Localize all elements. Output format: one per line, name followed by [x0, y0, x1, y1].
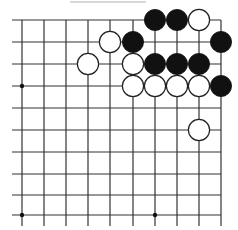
white-stone[interactable]	[188, 119, 209, 140]
white-stone[interactable]	[77, 53, 98, 74]
white-stone[interactable]	[188, 75, 209, 96]
star-point-icon	[20, 213, 24, 217]
star-point-icon	[153, 213, 157, 217]
black-stone[interactable]	[166, 53, 187, 74]
star-point-icon	[20, 84, 24, 88]
white-stone[interactable]	[144, 75, 165, 96]
white-stone[interactable]	[188, 9, 209, 30]
white-stone[interactable]	[166, 75, 187, 96]
black-stone[interactable]	[122, 31, 143, 52]
black-stone[interactable]	[188, 53, 209, 74]
white-stone[interactable]	[122, 75, 143, 96]
white-stone[interactable]	[99, 31, 120, 52]
black-stone[interactable]	[166, 9, 187, 30]
black-stone[interactable]	[144, 9, 165, 30]
black-stone[interactable]	[210, 75, 231, 96]
white-stone[interactable]	[122, 53, 143, 74]
go-board[interactable]	[0, 0, 238, 230]
black-stone[interactable]	[144, 53, 165, 74]
black-stone[interactable]	[210, 31, 231, 52]
